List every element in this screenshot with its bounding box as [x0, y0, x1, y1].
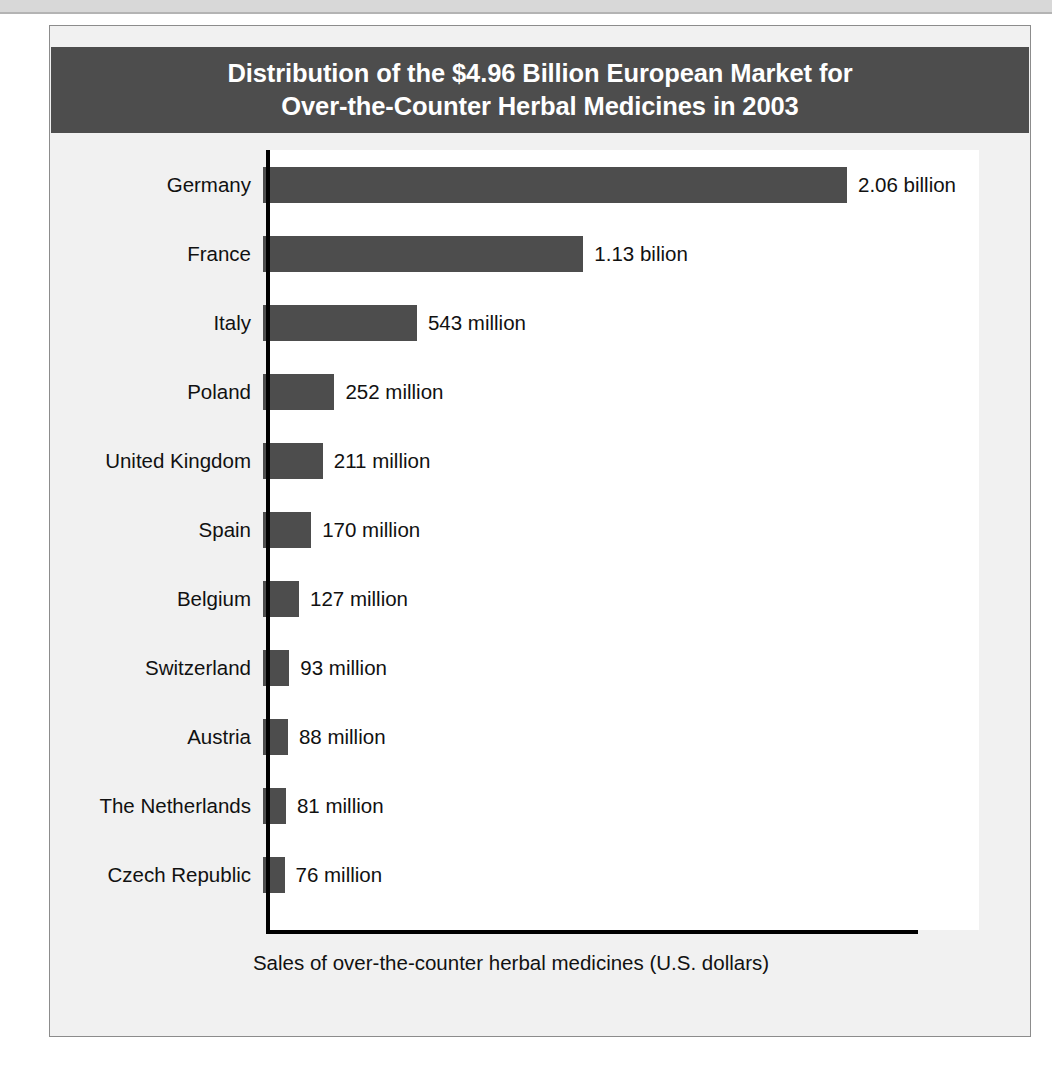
bar-category-label: United Kingdom	[51, 449, 263, 473]
x-axis-line	[266, 930, 918, 934]
bar-row: Spain170 million	[51, 495, 1029, 564]
bar-category-label: Poland	[51, 380, 263, 404]
bar-value-label: 211 million	[334, 449, 430, 473]
y-axis-line	[266, 150, 270, 934]
bar-value-label: 2.06 billion	[858, 173, 956, 197]
bar-row: Poland252 million	[51, 357, 1029, 426]
bar-category-label: Czech Republic	[51, 863, 263, 887]
bar-row: France1.13 bilion	[51, 219, 1029, 288]
bar-value-label: 170 million	[322, 518, 420, 542]
bar-value-label: 127 million	[310, 587, 408, 611]
bar	[263, 236, 583, 272]
page-top-rule	[0, 12, 1052, 14]
bar-row: Switzerland93 million	[51, 633, 1029, 702]
bar-track: 170 million	[263, 495, 1029, 564]
bar-row: Germany2.06 billion	[51, 150, 1029, 219]
bar-track: 76 million	[263, 840, 1029, 909]
bar-category-label: Belgium	[51, 587, 263, 611]
bar-category-label: The Netherlands	[51, 794, 263, 818]
bar-value-label: 1.13 bilion	[594, 242, 687, 266]
bar-track: 543 million	[263, 288, 1029, 357]
bar-value-label: 76 million	[296, 863, 383, 887]
bar-value-label: 543 million	[428, 311, 526, 335]
bar-category-label: Austria	[51, 725, 263, 749]
bar-value-label: 93 million	[300, 656, 387, 680]
bar	[263, 443, 323, 479]
chart-title-line-1: Distribution of the $4.96 Billion Europe…	[227, 59, 852, 87]
chart-region: Germany2.06 billionFrance1.13 bilionItal…	[51, 133, 1029, 1036]
bar-row: Italy543 million	[51, 288, 1029, 357]
bar-category-label: Switzerland	[51, 656, 263, 680]
bar	[263, 512, 311, 548]
bar-rows: Germany2.06 billionFrance1.13 bilionItal…	[51, 150, 1029, 910]
bar-row: United Kingdom211 million	[51, 426, 1029, 495]
bar-track: 211 million	[263, 426, 1029, 495]
bar-track: 88 million	[263, 702, 1029, 771]
bar-value-label: 88 million	[299, 725, 386, 749]
chart-title-bar: Distribution of the $4.96 Billion Europe…	[51, 47, 1029, 133]
bar-category-label: Spain	[51, 518, 263, 542]
bar-track: 127 million	[263, 564, 1029, 633]
bar-row: The Netherlands81 million	[51, 771, 1029, 840]
bar-track: 1.13 bilion	[263, 219, 1029, 288]
page-top-band	[0, 0, 1052, 12]
figure-card: Distribution of the $4.96 Billion Europe…	[49, 25, 1031, 1037]
bar-track: 252 million	[263, 357, 1029, 426]
bar	[263, 305, 417, 341]
bar-category-label: Germany	[51, 173, 263, 197]
bar-track: 93 million	[263, 633, 1029, 702]
bar-value-label: 81 million	[297, 794, 384, 818]
bar	[263, 167, 847, 203]
bar-row: Austria88 million	[51, 702, 1029, 771]
chart-title: Distribution of the $4.96 Billion Europe…	[209, 57, 870, 122]
bar	[263, 374, 334, 410]
bar-row: Belgium127 million	[51, 564, 1029, 633]
x-axis-label: Sales of over-the-counter herbal medicin…	[51, 951, 971, 975]
chart-title-line-2: Over-the-Counter Herbal Medicines in 200…	[281, 92, 798, 120]
bar-category-label: France	[51, 242, 263, 266]
bar-row: Czech Republic76 million	[51, 840, 1029, 909]
bar-track: 2.06 billion	[263, 150, 1029, 219]
bar-value-label: 252 million	[345, 380, 443, 404]
bar-category-label: Italy	[51, 311, 263, 335]
bar-track: 81 million	[263, 771, 1029, 840]
